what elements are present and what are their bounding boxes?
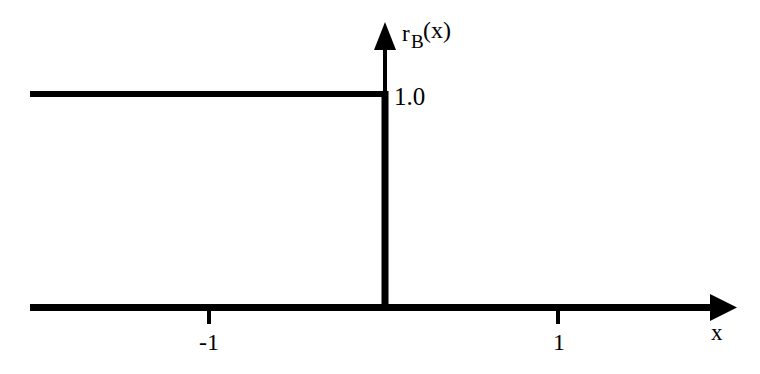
x-axis-label: x bbox=[711, 321, 723, 344]
x-axis-arrowhead bbox=[710, 294, 737, 321]
y-axis-label-base: r bbox=[402, 22, 410, 45]
plot-area bbox=[0, 0, 760, 374]
y-axis-label: rB(x) bbox=[402, 22, 410, 45]
x-tick-label-neg1: -1 bbox=[199, 330, 219, 354]
y-axis-value-label: 1.0 bbox=[394, 84, 425, 109]
step-function-chart: rB(x) 1.0 -1 1 x bbox=[0, 0, 760, 374]
y-axis-label-argument: (x) bbox=[423, 18, 451, 42]
y-axis-label-subscript: B bbox=[411, 32, 424, 51]
x-tick-label-pos1: 1 bbox=[553, 330, 565, 354]
y-axis-arrowhead bbox=[374, 22, 396, 50]
